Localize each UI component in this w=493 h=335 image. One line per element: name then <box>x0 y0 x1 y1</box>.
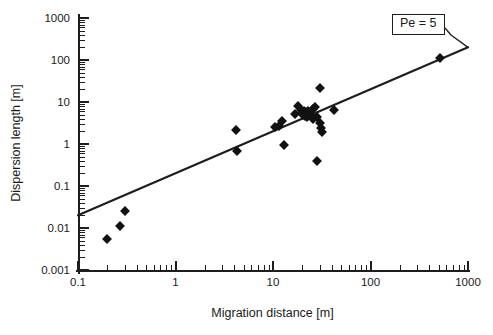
x-axis-minor-tick <box>258 265 259 270</box>
x-axis-tick-label: 1 <box>172 276 178 288</box>
chart-figure: 0.0010.010.111010010000.11101001000 Pe =… <box>0 0 493 335</box>
x-axis-minor-tick <box>366 265 367 270</box>
x-axis-minor-tick <box>205 265 206 270</box>
y-axis-minor-tick <box>80 195 85 196</box>
y-axis-minor-tick <box>80 245 85 246</box>
y-axis-minor-tick <box>80 199 85 200</box>
y-axis-minor-tick <box>80 25 85 26</box>
x-axis-tick-label: 1000 <box>455 276 481 288</box>
y-axis-minor-tick <box>80 148 85 149</box>
x-axis-minor-tick <box>269 265 270 270</box>
y-axis-minor-tick <box>80 230 85 231</box>
x-axis-minor-tick <box>154 265 155 270</box>
x-axis-title: Migration distance [m] <box>0 306 493 320</box>
x-axis-minor-tick <box>439 265 440 270</box>
x-axis-minor-tick <box>417 265 418 270</box>
x-axis-minor-tick <box>459 265 460 270</box>
y-axis-minor-tick <box>80 73 85 74</box>
y-axis-minor-tick <box>80 115 85 116</box>
y-axis-minor-tick <box>80 104 85 105</box>
y-axis-minor-tick <box>80 232 85 233</box>
y-axis-minor-tick <box>80 235 85 236</box>
x-axis-minor-tick <box>137 265 138 270</box>
x-axis-tick-label: 10 <box>267 276 280 288</box>
x-axis-minor-tick <box>341 265 342 270</box>
y-axis-tick-label: 1000 <box>8 12 70 24</box>
x-axis-minor-tick <box>355 265 356 270</box>
y-axis-minor-tick <box>80 151 85 152</box>
x-axis-minor-tick <box>160 265 161 270</box>
x-axis-minor-tick <box>349 265 350 270</box>
y-axis-major-tick <box>80 227 89 229</box>
x-axis-major-tick <box>467 261 469 270</box>
y-axis-minor-tick <box>80 237 85 238</box>
x-axis-minor-tick <box>107 265 108 270</box>
y-axis-minor-tick <box>80 193 85 194</box>
y-axis-minor-tick <box>80 77 85 78</box>
x-axis-minor-tick <box>251 265 252 270</box>
y-axis-minor-tick <box>80 31 85 32</box>
y-axis-minor-tick <box>80 166 85 167</box>
x-axis-minor-tick <box>332 265 333 270</box>
y-axis-minor-tick <box>80 208 85 209</box>
y-axis-minor-tick <box>80 153 85 154</box>
y-axis-minor-tick <box>80 109 85 110</box>
y-axis-minor-tick <box>80 161 85 162</box>
x-axis-minor-tick <box>146 265 147 270</box>
x-axis-tick-label: 100 <box>361 276 380 288</box>
y-axis-minor-tick <box>80 119 85 120</box>
x-axis-major-tick <box>77 261 79 270</box>
x-axis-minor-tick <box>166 265 167 270</box>
x-axis-minor-tick <box>320 265 321 270</box>
x-axis-minor-tick <box>125 265 126 270</box>
x-axis-minor-tick <box>429 265 430 270</box>
y-axis-minor-tick <box>80 124 85 125</box>
y-axis-minor-tick <box>80 203 85 204</box>
y-axis-minor-tick <box>80 69 85 70</box>
y-axis-minor-tick <box>80 241 85 242</box>
y-axis-tick-label: 0.001 <box>8 264 70 276</box>
y-axis-minor-tick <box>80 89 85 90</box>
x-axis-major-tick <box>175 261 177 270</box>
y-axis-minor-tick <box>80 106 85 107</box>
y-axis-major-tick <box>80 17 89 19</box>
y-axis-minor-tick <box>80 35 85 36</box>
y-axis-minor-tick <box>80 82 85 83</box>
y-axis-minor-tick <box>80 173 85 174</box>
pe-annotation-label: Pe = 5 <box>392 14 445 35</box>
y-axis-minor-tick <box>80 64 85 65</box>
y-axis-minor-tick <box>80 111 85 112</box>
y-axis-minor-tick <box>80 62 85 63</box>
x-axis-minor-tick <box>453 265 454 270</box>
y-axis-major-tick <box>80 59 89 61</box>
y-axis-minor-tick <box>80 27 85 28</box>
x-axis-line <box>76 270 470 272</box>
y-axis-minor-tick <box>80 131 85 132</box>
y-axis-minor-tick <box>80 22 85 23</box>
y-axis-minor-tick <box>80 20 85 21</box>
x-axis-minor-tick <box>234 265 235 270</box>
y-axis-major-tick <box>80 101 89 103</box>
x-axis-minor-tick <box>302 265 303 270</box>
y-axis-minor-tick <box>80 40 85 41</box>
y-axis-major-tick <box>80 143 89 145</box>
y-axis-minor-tick <box>80 250 85 251</box>
y-axis-minor-tick <box>80 257 85 258</box>
y-axis-minor-tick <box>80 215 85 216</box>
y-axis-minor-tick <box>80 67 85 68</box>
x-axis-minor-tick <box>171 265 172 270</box>
x-axis-minor-tick <box>222 265 223 270</box>
x-axis-major-tick <box>370 261 372 270</box>
x-axis-major-tick <box>272 261 274 270</box>
y-axis-major-tick <box>80 185 89 187</box>
x-axis-minor-tick <box>264 265 265 270</box>
x-axis-minor-tick <box>464 265 465 270</box>
y-axis-major-tick <box>80 269 89 271</box>
x-axis-tick-label: 0.1 <box>70 276 86 288</box>
x-axis-minor-tick <box>400 265 401 270</box>
y-axis-title: Dispersion length [m] <box>9 43 23 243</box>
y-axis-minor-tick <box>80 190 85 191</box>
y-axis-minor-tick <box>80 188 85 189</box>
y-axis-minor-tick <box>80 146 85 147</box>
y-axis-minor-tick <box>80 157 85 158</box>
